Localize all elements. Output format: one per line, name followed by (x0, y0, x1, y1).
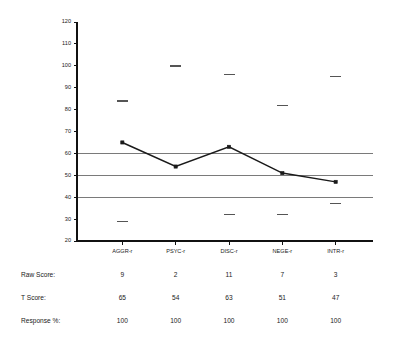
score-profile-report: 2030405060708090100110120AGGR-rPSYC-rDIS… (0, 0, 395, 337)
table-row-raw-score: Raw Score:921173 (0, 264, 395, 285)
cell-response-percent-DISC-r: 100 (208, 310, 250, 331)
cell-raw-score-INTR-r: 3 (315, 264, 357, 285)
cell-raw-score-PSYC-r: 2 (155, 264, 197, 285)
score-point-DISC-r (227, 145, 230, 148)
score-point-AGGR-r (121, 141, 124, 144)
y-tick-label-50: 50 (65, 172, 71, 178)
y-tick-label-30: 30 (65, 216, 71, 222)
table-row-t-score: T Score:6554635147 (0, 287, 395, 308)
y-tick-label-120: 120 (62, 18, 71, 24)
cell-raw-score-NEGE-r: 7 (261, 264, 303, 285)
cell-t-score-INTR-r: 47 (315, 287, 357, 308)
y-tick-label-100: 100 (62, 62, 71, 68)
score-point-NEGE-r (281, 172, 284, 175)
table-row-response-percent: Response %:100100100100100 (0, 310, 395, 331)
cell-raw-score-DISC-r: 11 (208, 264, 250, 285)
row-label-t-score: T Score: (21, 287, 46, 308)
y-tick-label-60: 60 (65, 150, 71, 156)
score-point-INTR-r (334, 180, 337, 183)
y-tick-label-40: 40 (65, 194, 71, 200)
cell-raw-score-AGGR-r: 9 (101, 264, 143, 285)
cell-response-percent-NEGE-r: 100 (261, 310, 303, 331)
x-tick-label-INTR-r: INTR-r (327, 248, 344, 254)
x-tick-label-DISC-r: DISC-r (220, 248, 237, 254)
y-tick-label-80: 80 (65, 106, 71, 112)
cell-response-percent-INTR-r: 100 (315, 310, 357, 331)
y-tick-label-90: 90 (65, 84, 71, 90)
cell-response-percent-AGGR-r: 100 (101, 310, 143, 331)
y-tick-label-70: 70 (65, 128, 71, 134)
scale-profile-chart: 2030405060708090100110120AGGR-rPSYC-rDIS… (0, 0, 395, 262)
row-label-response-percent: Response %: (21, 310, 60, 331)
x-tick-label-PSYC-r: PSYC-r (166, 248, 185, 254)
row-label-raw-score: Raw Score: (21, 264, 55, 285)
y-tick-label-110: 110 (62, 40, 71, 46)
cell-t-score-AGGR-r: 65 (101, 287, 143, 308)
x-tick-label-NEGE-r: NEGE-r (273, 248, 293, 254)
x-tick-label-AGGR-r: AGGR-r (112, 248, 132, 254)
score-summary-table: Raw Score:921173T Score:6554635147Respon… (0, 262, 395, 337)
y-tick-label-20: 20 (65, 237, 71, 243)
cell-response-percent-PSYC-r: 100 (155, 310, 197, 331)
score-point-PSYC-r (174, 165, 177, 168)
cell-t-score-PSYC-r: 54 (155, 287, 197, 308)
chart-canvas: 2030405060708090100110120AGGR-rPSYC-rDIS… (0, 0, 395, 262)
cell-t-score-DISC-r: 63 (208, 287, 250, 308)
cell-t-score-NEGE-r: 51 (261, 287, 303, 308)
